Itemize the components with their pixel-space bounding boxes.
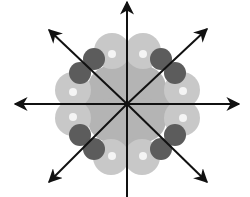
origin-point [125,102,130,107]
highlight-dot [108,152,116,160]
highlight-dot [139,152,147,160]
highlight-dot [69,113,77,121]
highlight-dot [108,50,116,58]
orbital-diagram [0,0,250,197]
highlight-dot [139,50,147,58]
axis-arrow-group [15,2,239,197]
dark-lobe-ll-inner [83,138,105,160]
dark-lobe-ul-inner [69,62,91,84]
highlight-dot [69,88,77,96]
dark-lobe-lr-inner [150,138,172,160]
highlight-dot [179,87,187,95]
highlight-dot [179,114,187,122]
